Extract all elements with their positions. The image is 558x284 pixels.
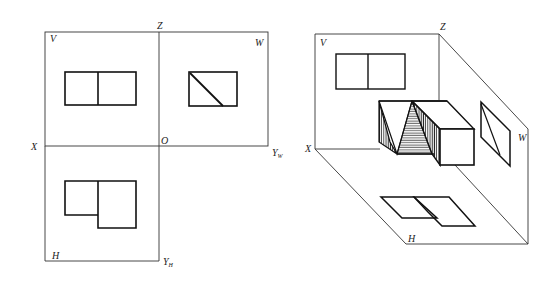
label-yw: YW — [272, 147, 284, 159]
side-view-projection — [189, 72, 237, 106]
top-projection-3d — [381, 197, 475, 226]
projection-diagram: Z V W X O YW H YH — [0, 0, 558, 284]
label-v-3d: V — [320, 37, 328, 48]
label-h-3d: H — [407, 233, 416, 244]
label-v: V — [50, 33, 58, 44]
top-view-projection — [65, 181, 136, 228]
side-projection-3d — [481, 102, 510, 166]
h-plane-frame — [45, 146, 159, 261]
orthographic-view: Z V W X O YW H YH — [30, 20, 284, 268]
label-x-3d: X — [304, 143, 312, 154]
label-z: Z — [157, 20, 163, 31]
front-projection-3d — [336, 54, 405, 89]
label-yh: YH — [163, 256, 174, 268]
solid-object — [379, 101, 474, 165]
v-w-plane-frame — [45, 32, 268, 146]
label-z-3d: Z — [440, 21, 446, 32]
pictorial-view: Z V W X H — [304, 21, 528, 244]
label-h: H — [51, 250, 60, 261]
label-o: O — [161, 135, 168, 146]
label-w-3d: W — [518, 132, 528, 143]
label-x: X — [30, 141, 38, 152]
front-view-projection — [65, 72, 136, 105]
label-w: W — [255, 37, 265, 48]
